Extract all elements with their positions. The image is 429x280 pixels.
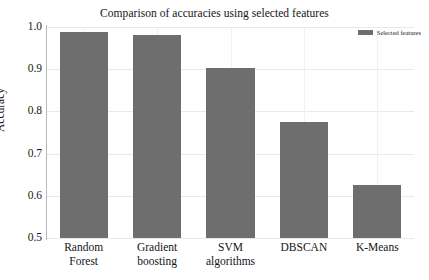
legend-swatch-selected-features bbox=[358, 30, 373, 35]
x-tick-label-line: Gradient bbox=[120, 240, 193, 254]
gridline-horizontal bbox=[47, 238, 414, 239]
x-tick-label-k-means: K-Means bbox=[341, 240, 414, 254]
x-tick-label-line: SVM bbox=[194, 240, 267, 254]
x-axis-tick-labels: RandomForestGradientboostingSVMalgorithm… bbox=[47, 240, 414, 278]
y-tick-label: 0.8 bbox=[8, 105, 42, 117]
y-tick-label: 0.7 bbox=[8, 148, 42, 160]
x-tick-label-random-forest: RandomForest bbox=[47, 240, 120, 268]
y-tick-label: 0.6 bbox=[8, 190, 42, 202]
y-tick-label: 0.9 bbox=[8, 63, 42, 75]
legend-label-selected-features: Selected features bbox=[377, 29, 421, 36]
y-tick-label: 0.5 bbox=[8, 232, 42, 244]
bar-dbscan[interactable] bbox=[280, 122, 328, 238]
y-axis-tick-labels: 1.00.90.80.70.60.5 bbox=[0, 0, 42, 280]
y-tick-label: 1.0 bbox=[8, 21, 42, 33]
bar-gradient-boosting[interactable] bbox=[133, 35, 181, 238]
bar-k-means[interactable] bbox=[353, 185, 401, 238]
bar-svm-algorithms[interactable] bbox=[206, 68, 254, 238]
chart-title: Comparison of accuracies using selected … bbox=[0, 7, 429, 19]
plot-area bbox=[47, 27, 414, 238]
x-tick-label-svm-algorithms: SVMalgorithms bbox=[194, 240, 267, 268]
x-tick-label-line: boosting bbox=[120, 254, 193, 268]
x-tick-label-dbscan: DBSCAN bbox=[267, 240, 340, 254]
x-tick-label-gradient-boosting: Gradientboosting bbox=[120, 240, 193, 268]
x-tick-label-line: K-Means bbox=[341, 240, 414, 254]
y-axis-title: Accuracy bbox=[0, 88, 6, 132]
bar-random-forest[interactable] bbox=[60, 32, 108, 238]
x-tick-label-line: algorithms bbox=[194, 254, 267, 268]
chart-legend: Selected features bbox=[358, 29, 421, 36]
x-tick-label-line: Random bbox=[47, 240, 120, 254]
x-tick-label-line: Forest bbox=[47, 254, 120, 268]
x-tick-label-line: DBSCAN bbox=[267, 240, 340, 254]
chart-figure: Comparison of accuracies using selected … bbox=[0, 0, 429, 280]
